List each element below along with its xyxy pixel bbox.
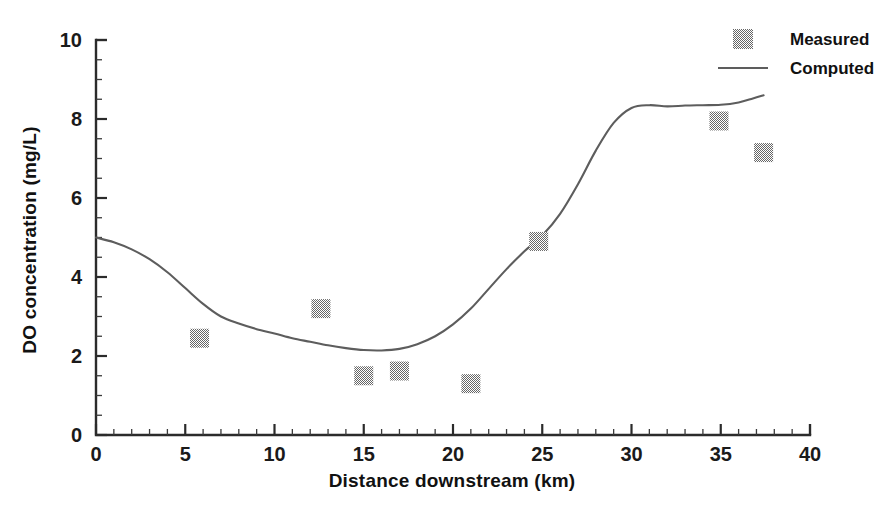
legend-label-computed: Computed [790, 59, 874, 78]
chart-legend: Measured Computed [0, 0, 890, 514]
chart-figure: 05101520253035400246810 Distance downstr… [0, 0, 890, 514]
legend-label-measured: Measured [790, 30, 869, 49]
legend-marker-measured [733, 29, 753, 49]
